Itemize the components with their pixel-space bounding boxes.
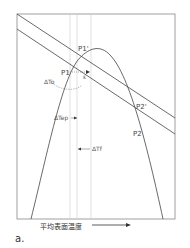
xaxis-arrowhead (126, 223, 131, 227)
xaxis-label: 平均表面温度 (40, 221, 82, 231)
upper-diagonal-line (17, 14, 175, 118)
point-label-p2: P2 (133, 131, 142, 138)
point-label-p1-prime: P1' (78, 46, 89, 53)
panel-label: a. (15, 233, 24, 244)
diagram-canvas (0, 0, 190, 248)
epsilon-label: ε (83, 74, 86, 80)
delta-to-arc (52, 83, 82, 89)
delta-tep-arrowhead (74, 117, 77, 120)
delta-tep-label: ΔTep (54, 115, 68, 121)
delta-tf-label: ΔTf (92, 146, 102, 152)
delta-to-label: ΔTo (44, 79, 54, 85)
point-label-p2-prime: P2' (136, 104, 147, 111)
lower-diagonal-line (17, 29, 175, 134)
delta-tf-arrowhead (78, 148, 81, 151)
temperature-curve (31, 49, 163, 219)
point-label-p1: P1 (61, 70, 70, 77)
epsilon-arrowhead (86, 70, 90, 74)
